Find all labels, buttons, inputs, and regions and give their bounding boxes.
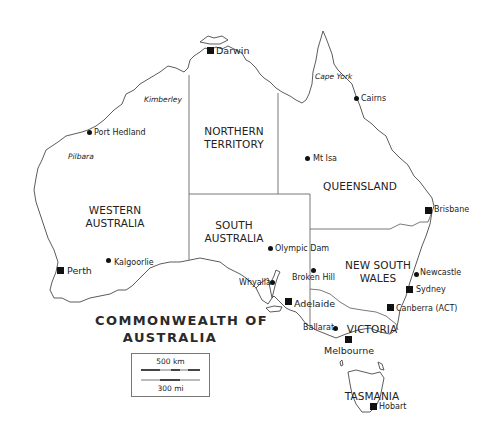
map-title-line2: AUSTRALIA <box>95 330 245 347</box>
tiwi-islands <box>200 36 228 44</box>
city-label-kalgoorlie: Kalgoorlie <box>114 259 154 267</box>
city-label-hobart: Hobart <box>379 403 406 411</box>
city-label-cairns: Cairns <box>361 95 386 103</box>
state-label-wa: WESTERN AUSTRALIA <box>82 204 148 230</box>
scale-km-label: 500 km <box>132 357 209 366</box>
state-label-nt: NORTHERN TERRITORY <box>196 125 272 151</box>
city-label-whyalla: Whyalla <box>239 279 271 287</box>
scale-km-bar <box>141 369 200 371</box>
city-label-darwin: Darwin <box>216 46 249 56</box>
town-marker-olympic-dam <box>268 246 273 251</box>
state-label-qld: QUEENSLAND <box>322 180 398 193</box>
city-label-newcastle: Newcastle <box>420 269 461 277</box>
capital-marker-hobart <box>370 403 377 410</box>
king-island <box>340 360 343 366</box>
region-label-cape-york: Cape York <box>315 73 352 81</box>
city-label-sydney: Sydney <box>416 286 446 294</box>
scale-bar: 500 km 300 mi <box>131 353 210 397</box>
map-title-line1: COMMONWEALTH OF <box>95 313 245 330</box>
town-marker-port-hedland <box>87 130 92 135</box>
city-label-olympic-dam: Olympic Dam <box>275 245 329 253</box>
town-marker-kalgoorlie <box>106 258 111 263</box>
city-label-port-hedland: Port Hedland <box>94 129 146 137</box>
capital-marker-sydney <box>406 286 413 293</box>
city-label-brisbane: Brisbane <box>434 206 469 214</box>
capital-marker-brisbane <box>425 207 432 214</box>
city-label-melbourne: Melbourne <box>324 346 374 356</box>
town-marker-cairns <box>354 96 359 101</box>
capital-marker-perth <box>57 267 64 274</box>
town-marker-mt-isa <box>305 156 310 161</box>
city-label-adelaide: Adelaide <box>294 299 335 309</box>
region-label-kimberley: Kimberley <box>144 96 182 104</box>
flinders-island <box>378 362 384 370</box>
capital-marker-adelaide <box>285 298 292 305</box>
state-label-vic: VICTORIA <box>340 323 404 336</box>
city-label-broken-hill: Broken Hill <box>292 274 335 282</box>
state-label-sa: SOUTH AUSTRALIA <box>200 219 268 245</box>
kangaroo-island <box>266 306 282 312</box>
capital-marker-canberra <box>387 304 394 311</box>
map-title: COMMONWEALTH OF AUSTRALIA <box>95 313 245 347</box>
town-marker-newcastle <box>414 272 419 277</box>
capital-marker-melbourne <box>345 336 352 343</box>
city-label-ballarat: Ballarat <box>303 324 334 332</box>
city-label-canberra: Canberra (ACT) <box>396 305 458 313</box>
capital-marker-darwin <box>207 47 214 54</box>
city-label-perth: Perth <box>67 266 92 276</box>
scale-mi-label: 300 mi <box>132 384 209 393</box>
region-label-pilbara: Pilbara <box>68 153 94 161</box>
state-label-nsw: NEW SOUTH WALES <box>340 259 416 285</box>
city-label-mt-isa: Mt Isa <box>313 155 337 163</box>
scale-mi-bar <box>141 379 200 381</box>
